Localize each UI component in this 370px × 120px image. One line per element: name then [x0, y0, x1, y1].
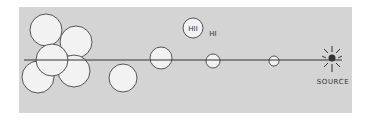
hii-label: HII: [188, 25, 197, 33]
ionized-bubble: [109, 64, 137, 92]
ionization-diagram: HII HI SOURCE: [0, 0, 370, 120]
ionized-bubble: [30, 14, 62, 46]
ionized-bubble: [206, 54, 220, 68]
ionized-bubble: [150, 47, 172, 69]
ionized-bubble: [269, 56, 279, 66]
source-label: SOURCE: [317, 78, 350, 86]
hi-label: HI: [209, 30, 216, 38]
